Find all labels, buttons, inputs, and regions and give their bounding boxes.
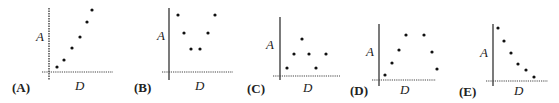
x-axis-label: D	[194, 78, 205, 93]
data-point	[502, 39, 505, 42]
data-point	[285, 66, 288, 69]
panel-label: (D)	[350, 83, 368, 98]
data-point	[496, 26, 499, 29]
data-point	[189, 47, 192, 50]
data-point	[383, 73, 386, 76]
data-point	[206, 31, 209, 34]
data-point	[390, 61, 393, 64]
data-point	[307, 52, 310, 55]
data-point	[78, 35, 81, 38]
x-axis-label: D	[74, 78, 85, 93]
data-point	[314, 66, 317, 69]
data-point	[85, 20, 88, 23]
x-axis-label: D	[513, 83, 524, 98]
panel-label: (E)	[459, 84, 476, 99]
y-axis-label: A	[479, 45, 488, 60]
scatter-panel-d: AD(D)	[350, 24, 439, 98]
data-point	[300, 37, 303, 40]
y-axis-label: A	[35, 29, 44, 44]
data-point	[404, 33, 407, 36]
x-axis-label: D	[302, 80, 313, 95]
data-point	[324, 52, 327, 55]
data-point	[182, 31, 185, 34]
data-point	[516, 62, 519, 65]
scatter-panel-e: AD(E)	[459, 24, 548, 99]
scatter-panel-a: AD(A)	[12, 8, 113, 95]
data-point	[524, 68, 527, 71]
y-axis-label: A	[156, 28, 165, 43]
data-point	[509, 51, 512, 54]
data-point	[430, 50, 433, 53]
data-point	[62, 58, 65, 61]
data-point	[176, 13, 179, 16]
panel-label: (A)	[12, 80, 30, 95]
data-point	[292, 52, 295, 55]
data-point	[532, 75, 535, 78]
data-point	[55, 65, 58, 68]
data-point	[70, 46, 73, 49]
scatter-panel-c: AD(C)	[247, 17, 340, 96]
data-point	[213, 13, 216, 16]
data-point	[90, 8, 93, 11]
data-point	[198, 47, 201, 50]
data-point	[422, 33, 425, 36]
scatter-figure: AD(A)AD(B)AD(C)AD(D)AD(E)	[0, 0, 559, 103]
data-point	[435, 67, 438, 70]
panel-label: (B)	[134, 80, 151, 95]
y-axis-label: A	[365, 44, 374, 59]
panel-label: (C)	[247, 81, 265, 96]
y-axis-label: A	[265, 37, 274, 52]
data-point	[397, 48, 400, 51]
scatter-panel-b: AD(B)	[134, 8, 233, 95]
x-axis-label: D	[399, 82, 410, 97]
